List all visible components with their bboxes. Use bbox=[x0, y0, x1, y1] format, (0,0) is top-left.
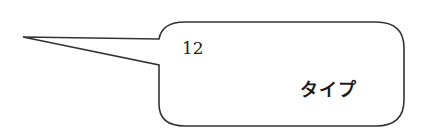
speech-bubble-outline bbox=[23, 22, 404, 126]
callout-type-label: タイプ bbox=[300, 78, 357, 102]
speech-bubble bbox=[0, 0, 423, 136]
callout-number: 12 bbox=[182, 38, 204, 58]
